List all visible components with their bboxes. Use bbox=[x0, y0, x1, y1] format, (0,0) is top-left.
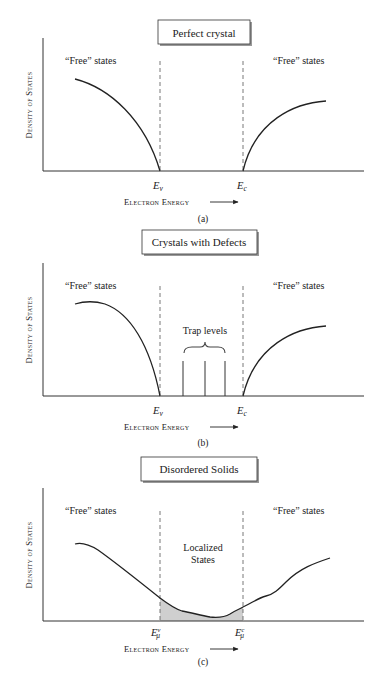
localized-states-label-line2: States bbox=[191, 554, 215, 565]
x-axis-label: Electron Energy bbox=[124, 197, 190, 207]
panel-b: Crystals with Defects Density of States … bbox=[24, 230, 364, 449]
panel-b-caption: (b) bbox=[197, 438, 208, 449]
free-states-left-label: “Free” states bbox=[65, 505, 116, 516]
free-states-left-label: “Free” states bbox=[65, 55, 116, 66]
x-axis-label: Electron Energy bbox=[124, 644, 190, 654]
valence-band-curve bbox=[75, 302, 160, 396]
ev-label: Ev bbox=[152, 405, 163, 418]
trap-levels-label: Trap levels bbox=[183, 325, 227, 336]
panel-b-title-box: Crystals with Defects bbox=[142, 230, 259, 256]
ec-label: Ec bbox=[236, 405, 247, 418]
ec-label: Ec bbox=[236, 180, 247, 193]
free-states-right-label: “Free” states bbox=[273, 55, 324, 66]
panel-c: Disordered Solids Density of States “Fre… bbox=[24, 457, 364, 668]
y-axis-label: Density of States bbox=[24, 522, 34, 589]
panel-c-title: Disordered Solids bbox=[159, 463, 238, 475]
panel-a: Perfect crystal Density of States “Free”… bbox=[24, 20, 364, 225]
conduction-band-curve bbox=[243, 326, 326, 396]
y-axis-label: Density of States bbox=[24, 297, 34, 364]
free-states-right-label: “Free” states bbox=[273, 505, 324, 516]
localized-states-label-line1: Localized bbox=[183, 542, 222, 553]
panel-a-title: Perfect crystal bbox=[172, 27, 235, 39]
localized-states-shading bbox=[160, 598, 243, 621]
free-states-left-label: “Free” states bbox=[65, 280, 116, 291]
free-states-right-label: “Free” states bbox=[273, 280, 324, 291]
panel-b-title: Crystals with Defects bbox=[152, 236, 247, 248]
density-of-states-figure: Perfect crystal Density of States “Free”… bbox=[0, 0, 381, 681]
panel-a-title-box: Perfect crystal bbox=[158, 20, 252, 46]
y-axis-label: Density of States bbox=[24, 72, 34, 139]
ev-mobility-edge-label: Evμ bbox=[150, 626, 160, 640]
panel-c-caption: (c) bbox=[198, 657, 209, 668]
ec-mobility-edge-label: Ecμ bbox=[234, 626, 244, 640]
panel-a-caption: (a) bbox=[198, 214, 209, 225]
x-axis-label: Electron Energy bbox=[124, 422, 190, 432]
ev-label: Ev bbox=[152, 180, 163, 193]
trap-levels-brace bbox=[184, 342, 225, 353]
valence-band-curve bbox=[75, 79, 160, 171]
conduction-band-curve bbox=[243, 101, 326, 171]
panel-c-title-box: Disordered Solids bbox=[141, 457, 259, 483]
